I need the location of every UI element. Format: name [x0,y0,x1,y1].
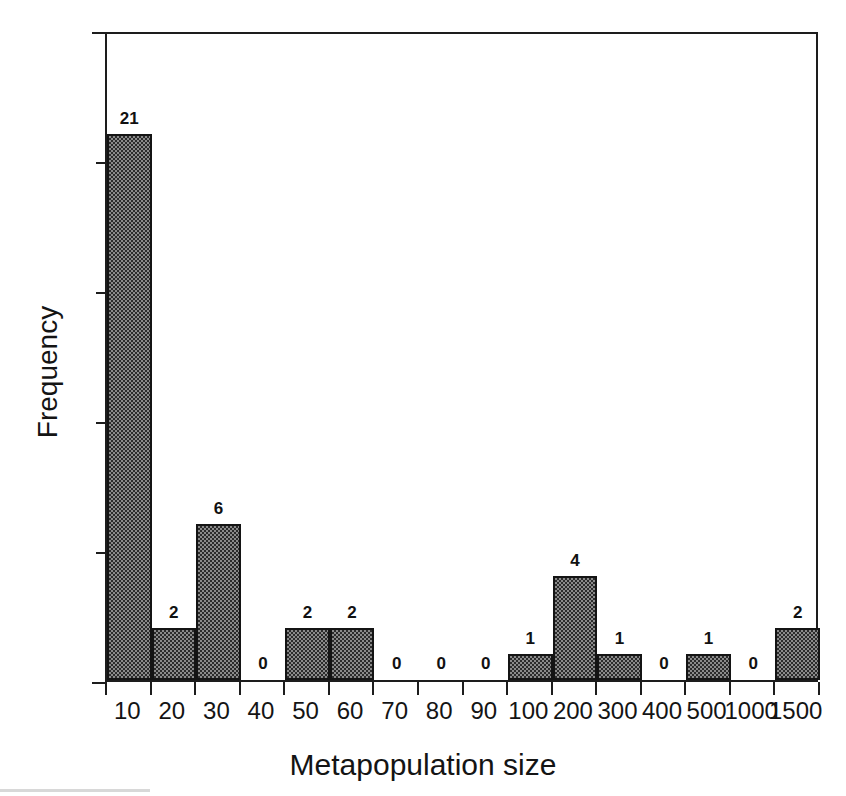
bar-value-label-400: 0 [642,654,687,674]
x-tick-label-400: 400 [642,697,682,725]
bar-value-label-40: 0 [241,654,286,674]
bar-slot: 0 [419,34,464,680]
bar-20[interactable] [152,628,197,680]
bar-value-label-70: 0 [374,654,419,674]
x-tick-mark [150,682,152,695]
x-tick-mark [729,682,731,695]
x-tick-label-200: 200 [553,697,593,725]
scan-edge-artifact [0,789,150,792]
x-tick-mark [194,682,196,695]
bar-slot: 2 [330,34,375,680]
x-tick-label-1500: 1500 [769,697,822,725]
y-tick-mark-25 [92,32,106,34]
x-tick-mark [551,682,553,695]
bar-value-label-1000: 0 [731,654,776,674]
bar-slot: 1 [508,34,553,680]
x-tick-mark [105,682,107,695]
x-tick-label-100: 100 [508,697,548,725]
bar-30[interactable] [196,524,241,680]
bar-slot: 2 [775,34,820,680]
histogram-figure: Frequency 0510152025 21260220001410102 1… [0,0,846,796]
x-tick-mark [818,682,820,695]
bar-500[interactable] [686,654,731,680]
x-tick-label-90: 90 [470,697,497,725]
bar-100[interactable] [508,654,553,680]
x-tick-label-10: 10 [114,697,141,725]
bar-slot: 0 [731,34,776,680]
x-tick-label-70: 70 [381,697,408,725]
bar-slot: 0 [241,34,286,680]
x-tick-mark [684,682,686,695]
bar-value-label-100: 1 [508,629,553,649]
x-tick-label-40: 40 [248,697,275,725]
bar-slot: 21 [107,34,152,680]
bar-slot: 0 [642,34,687,680]
x-tick-mark [506,682,508,695]
bar-10[interactable] [107,134,152,680]
x-tick-label-30: 30 [203,697,230,725]
bar-300[interactable] [597,654,642,680]
x-tick-mark [283,682,285,695]
bar-value-label-90: 0 [464,654,509,674]
x-tick-mark [328,682,330,695]
bar-value-label-30: 6 [196,499,241,519]
bar-slot: 6 [196,34,241,680]
bar-value-label-10: 21 [107,109,152,129]
x-tick-mark [239,682,241,695]
bar-slot: 1 [686,34,731,680]
x-tick-label-80: 80 [426,697,453,725]
x-tick-label-500: 500 [687,697,727,725]
bar-value-label-60: 2 [330,603,375,623]
bar-value-label-80: 0 [419,654,464,674]
bar-slot: 2 [152,34,197,680]
bar-slot: 0 [464,34,509,680]
bar-value-label-200: 4 [553,551,598,571]
bar-1500[interactable] [775,628,820,680]
x-tick-label-60: 60 [337,697,364,725]
x-tick-mark [462,682,464,695]
bar-value-label-300: 1 [597,629,642,649]
x-tick-label-20: 20 [158,697,185,725]
bars-layer: 21260220001410102 [107,34,816,680]
bar-slot: 4 [553,34,598,680]
plot-area: 21260220001410102 [105,32,818,682]
bar-slot: 1 [597,34,642,680]
bar-slot: 2 [285,34,330,680]
bar-value-label-20: 2 [152,603,197,623]
bar-60[interactable] [330,628,375,680]
x-tick-mark [417,682,419,695]
bar-value-label-1500: 2 [775,603,820,623]
x-tick-mark [372,682,374,695]
bar-slot: 0 [374,34,419,680]
bar-50[interactable] [285,628,330,680]
x-tick-mark [640,682,642,695]
bar-value-label-50: 2 [285,603,330,623]
x-axis-title: Metapopulation size [0,748,846,782]
x-tick-label-50: 50 [292,697,319,725]
y-tick-mark-0 [92,682,106,684]
y-axis-title: Frequency [32,272,64,472]
bar-200[interactable] [553,576,598,680]
x-tick-mark [773,682,775,695]
bar-value-label-500: 1 [686,629,731,649]
x-tick-mark [595,682,597,695]
x-tick-label-300: 300 [597,697,637,725]
